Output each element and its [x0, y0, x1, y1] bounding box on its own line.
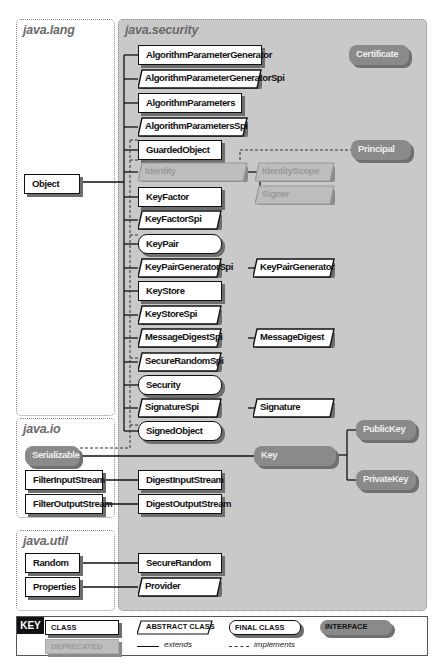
- package-java-lang: java.lang: [16, 19, 115, 416]
- class-label: DigestOutputStream: [146, 498, 231, 509]
- class-label: Security: [146, 379, 180, 390]
- class-properties[interactable]: Properties: [25, 577, 80, 597]
- class-label: FilterInputStream: [33, 474, 105, 485]
- interface-private-key[interactable]: PrivateKey: [356, 470, 416, 490]
- class-label: KeyFactor: [146, 191, 189, 202]
- interface-label: Key: [261, 449, 277, 460]
- class-random[interactable]: Random: [25, 553, 80, 573]
- class-label: Signer: [262, 188, 289, 199]
- legend-final-class: FINAL CLASS: [229, 620, 301, 635]
- deprecated-abstract-class-identity-scope[interactable]: IdentityScope: [255, 162, 335, 182]
- class-label: AlgorithmParametersSpi: [145, 120, 248, 131]
- abstract-class-algorithm-parameters-spi[interactable]: AlgorithmParametersSpi: [138, 117, 248, 137]
- abstract-class-key-factor-spi[interactable]: KeyFactorSpi: [138, 210, 222, 230]
- class-label: AlgorithmParameters: [146, 97, 235, 108]
- abstract-class-key-pair-generator-spi[interactable]: KeyPairGeneratorSpi: [138, 258, 222, 278]
- class-label: Properties: [33, 581, 76, 592]
- deprecated-abstract-class-signer[interactable]: Signer: [255, 185, 335, 205]
- legend-abstract-label: ABSTRACT CLASS: [146, 622, 215, 631]
- interface-label: Certificate: [356, 48, 398, 59]
- abstract-class-provider[interactable]: Provider: [138, 577, 222, 597]
- class-label: Signature: [260, 401, 300, 412]
- class-key-store[interactable]: KeyStore: [138, 281, 222, 301]
- interface-label: Principal: [358, 143, 395, 154]
- interface-label: Serializable: [32, 449, 79, 460]
- class-label: KeyPair: [146, 238, 179, 249]
- abstract-class-algorithm-parameter-generator-spi[interactable]: AlgorithmParameterGeneratorSpi: [138, 69, 262, 89]
- abstract-class-key-pair-generator[interactable]: KeyPairGenerator: [253, 258, 335, 278]
- legend-deprecated: DEPRECATED: [45, 639, 119, 654]
- class-label: KeyStoreSpi: [145, 308, 197, 319]
- interface-key[interactable]: Key: [254, 446, 336, 466]
- class-label: GuardedObject: [146, 144, 209, 155]
- legend-deprecated-label: DEPRECATED: [51, 642, 102, 651]
- interface-label: PublicKey: [363, 423, 405, 434]
- class-label: AlgorithmParameterGeneratorSpi: [145, 72, 285, 83]
- class-label: MessageDigestSpi: [145, 331, 223, 342]
- class-algorithm-parameters[interactable]: AlgorithmParameters: [138, 93, 242, 113]
- class-label: Object: [32, 178, 59, 189]
- class-secure-random[interactable]: SecureRandom: [138, 553, 222, 573]
- class-label: KeyPairGenerator: [260, 261, 334, 272]
- class-label: IdentityScope: [262, 165, 319, 176]
- deprecated-abstract-class-identity[interactable]: Identity: [138, 162, 248, 182]
- class-label: Identity: [145, 165, 176, 176]
- class-digest-output-stream[interactable]: DigestOutputStream: [138, 494, 222, 514]
- final-class-signed-object[interactable]: SignedObject: [138, 421, 222, 441]
- legend: KEY CLASS ABSTRACT CLASS FINAL CLASS INT…: [16, 616, 428, 656]
- package-title: java.util: [23, 534, 68, 548]
- package-title: java.security: [125, 23, 198, 37]
- abstract-class-key-store-spi[interactable]: KeyStoreSpi: [138, 305, 222, 325]
- abstract-class-signature[interactable]: Signature: [253, 398, 335, 418]
- implements-line-sample: [229, 646, 249, 647]
- legend-extends-label: extends: [164, 640, 192, 649]
- class-label: Provider: [145, 580, 180, 591]
- class-algorithm-parameter-generator[interactable]: AlgorithmParameterGenerator: [138, 45, 262, 65]
- class-label: KeyFactorSpi: [145, 213, 201, 224]
- class-label: SecureRandom: [146, 557, 211, 568]
- extends-line-sample: [137, 646, 159, 647]
- class-label: Random: [33, 557, 69, 568]
- package-title: java.io: [23, 422, 61, 436]
- legend-interface: INTERFACE: [320, 620, 392, 635]
- abstract-class-secure-random-spi[interactable]: SecureRandomSpi: [138, 352, 222, 372]
- legend-implements-label: implements: [254, 640, 295, 649]
- package-title: java.lang: [23, 23, 75, 37]
- interface-public-key[interactable]: PublicKey: [356, 420, 416, 440]
- final-class-security[interactable]: Security: [138, 375, 222, 395]
- interface-certificate[interactable]: Certificate: [349, 45, 409, 65]
- abstract-class-message-digest[interactable]: MessageDigest: [253, 328, 335, 348]
- class-label: SignedObject: [146, 425, 202, 436]
- interface-label: PrivateKey: [363, 473, 408, 484]
- interface-serializable[interactable]: Serializable: [25, 446, 80, 466]
- legend-interface-label: INTERFACE: [325, 622, 368, 631]
- class-digest-input-stream[interactable]: DigestInputStream: [138, 470, 222, 490]
- class-object[interactable]: Object: [24, 174, 80, 194]
- class-guarded-object[interactable]: GuardedObject: [138, 140, 222, 160]
- class-label: DigestInputStream: [146, 474, 224, 485]
- final-class-key-pair[interactable]: KeyPair: [138, 234, 222, 254]
- class-label: AlgorithmParameterGenerator: [146, 49, 272, 60]
- legend-class-label: CLASS: [51, 623, 76, 632]
- class-filter-input-stream[interactable]: FilterInputStream: [25, 470, 103, 490]
- class-filter-output-stream[interactable]: FilterOutputStream: [25, 494, 103, 514]
- class-label: KeyStore: [146, 285, 185, 296]
- interface-principal[interactable]: Principal: [351, 140, 411, 160]
- class-label: SecureRandomSpi: [145, 355, 223, 366]
- legend-abstract-class: ABSTRACT CLASS: [137, 620, 213, 635]
- class-label: SignatureSpi: [145, 401, 199, 412]
- abstract-class-signature-spi[interactable]: SignatureSpi: [138, 398, 222, 418]
- legend-class: CLASS: [45, 620, 119, 635]
- abstract-class-message-digest-spi[interactable]: MessageDigestSpi: [138, 328, 222, 348]
- legend-final-label: FINAL CLASS: [235, 623, 284, 632]
- class-key-factor[interactable]: KeyFactor: [138, 187, 222, 207]
- class-label: MessageDigest: [260, 331, 324, 342]
- class-label: FilterOutputStream: [33, 498, 112, 509]
- legend-title: KEY: [17, 617, 44, 634]
- class-label: KeyPairGeneratorSpi: [145, 261, 233, 272]
